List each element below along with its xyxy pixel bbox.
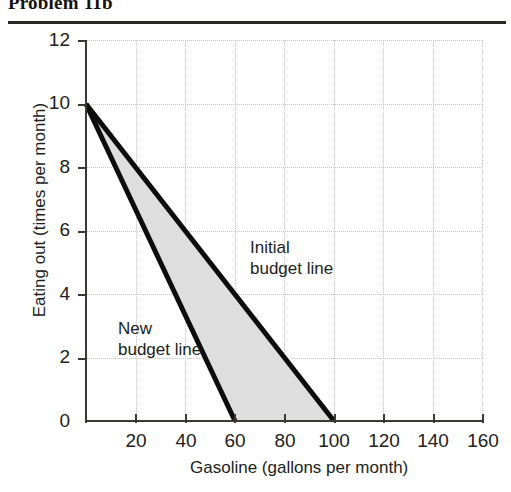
x-ticklabel-80: 80: [263, 430, 307, 452]
gridline-x-40: [185, 40, 186, 421]
y-tick-6: [78, 231, 87, 233]
y-tick-2: [78, 358, 87, 360]
x-tick-80: [284, 414, 286, 423]
y-tick-8: [78, 167, 87, 169]
y-axis-title: Eating out (times per month): [30, 10, 50, 410]
x-ticklabel-160: 160: [461, 430, 505, 452]
x-axis-title: Gasoline (gallons per month): [190, 458, 408, 478]
y-tick-12: [78, 40, 87, 42]
x-ticklabel-60: 60: [213, 430, 257, 452]
annotation-initial-budget-line: Initial budget line: [250, 237, 333, 280]
x-ticklabel-40: 40: [164, 430, 208, 452]
y-tick-10: [78, 104, 87, 106]
gridline-x-120: [383, 40, 384, 421]
x-tick-140: [433, 414, 435, 423]
annotation-new-budget-line: New budget line: [118, 318, 201, 361]
plot-area: [86, 40, 482, 421]
gridline-x-140: [433, 40, 434, 421]
x-tick-160: [482, 414, 484, 423]
x-ticklabel-120: 120: [362, 430, 406, 452]
gridline-x-100: [334, 40, 335, 421]
x-tick-60: [234, 414, 236, 423]
annotation-initial-line1: Initial: [250, 237, 333, 258]
gridline-x-60: [235, 40, 236, 421]
budget-line-chart: 12 10 8 6 4 2 0 20 40 60 80 100 120 140 …: [0, 0, 511, 492]
annotation-new-line2: budget line: [118, 339, 201, 360]
gridline-x-80: [284, 40, 285, 421]
x-tick-40: [185, 414, 187, 423]
y-tick-4: [78, 294, 87, 296]
gridline-x-20: [136, 40, 137, 421]
annotation-new-line1: New: [118, 318, 201, 339]
annotation-initial-line2: budget line: [250, 258, 333, 279]
x-tick-120: [383, 414, 385, 423]
x-ticklabel-140: 140: [411, 430, 455, 452]
gridline-x-160: [482, 40, 483, 421]
x-ticklabel-100: 100: [312, 430, 356, 452]
x-tick-100: [334, 414, 336, 423]
x-ticklabel-20: 20: [114, 430, 158, 452]
x-tick-20: [135, 414, 137, 423]
y-ticklabel-0: 0: [40, 410, 70, 432]
